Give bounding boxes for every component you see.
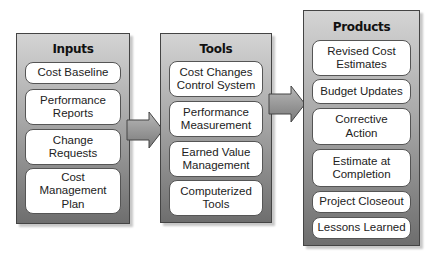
tool-earned-value-management: Earned Value Management (169, 141, 263, 177)
input-performance-reports: Performance Reports (25, 89, 121, 125)
product-budget-updates: Budget Updates (312, 79, 411, 104)
input-cost-management-plan: Cost Management Plan (25, 168, 121, 214)
product-revised-cost-estimates: Revised Cost Estimates (312, 40, 411, 76)
inputs-panel: Inputs Cost Baseline Performance Reports… (16, 33, 130, 224)
tools-title: Tools (161, 42, 271, 56)
product-project-closeout: Project Closeout (312, 191, 411, 213)
product-corrective-action: Corrective Action (312, 108, 411, 145)
tool-performance-measurement: Performance Measurement (169, 101, 263, 137)
product-estimate-at-completion: Estimate at Completion (312, 149, 411, 187)
products-title: Products (304, 20, 419, 34)
tool-cost-changes-control-system: Cost Changes Control System (169, 61, 263, 97)
tools-panel: Tools Cost Changes Control System Perfor… (160, 33, 272, 223)
input-change-requests: Change Requests (25, 129, 121, 165)
products-panel: Products Revised Cost Estimates Budget U… (303, 10, 420, 246)
tool-computerized-tools: Computerized Tools (169, 180, 263, 216)
product-lessons-learned: Lessons Learned (312, 217, 411, 239)
input-cost-baseline: Cost Baseline (25, 62, 121, 84)
inputs-title: Inputs (17, 42, 129, 56)
